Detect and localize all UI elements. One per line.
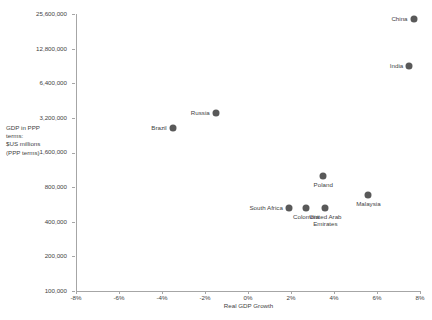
y-axis-tick-mark — [72, 14, 75, 15]
y-axis-title-line: $US millions — [6, 140, 72, 148]
data-point[interactable] — [320, 172, 327, 179]
y-axis-title-line: GDP in PPP — [6, 124, 72, 132]
x-axis-tick-mark — [420, 291, 421, 294]
y-axis-tick-label: 400,000 — [45, 219, 67, 225]
data-point-label: United Arab Emirates — [309, 213, 341, 228]
y-axis-tick-label: 3,200,000 — [39, 115, 67, 121]
data-point[interactable] — [212, 110, 219, 117]
scatter-chart: 100,000200,000400,000800,0001,600,0003,2… — [0, 0, 432, 320]
y-axis-tick-mark — [72, 187, 75, 188]
y-axis-tick-mark — [72, 256, 75, 257]
data-point[interactable] — [285, 204, 292, 211]
x-axis-tick-mark — [162, 291, 163, 294]
x-axis-tick-label: 8% — [416, 295, 425, 301]
x-axis-tick-mark — [119, 291, 120, 294]
y-axis-tick-label: 200,000 — [45, 253, 67, 259]
data-point[interactable] — [303, 204, 310, 211]
y-axis-tick-label: 6,400,000 — [39, 80, 67, 86]
y-axis-tick-mark — [72, 291, 75, 292]
data-point-label: Malaysia — [356, 200, 380, 207]
y-axis-title-line: terms: — [6, 132, 72, 140]
x-axis-tick-label: 0% — [244, 295, 253, 301]
data-point[interactable] — [169, 125, 176, 132]
x-axis-tick-mark — [205, 291, 206, 294]
y-axis-tick-label: 100,000 — [45, 288, 67, 294]
data-point-label: Russia — [191, 110, 210, 117]
data-point[interactable] — [365, 192, 372, 199]
data-point[interactable] — [406, 63, 413, 70]
x-axis-tick-label: 2% — [287, 295, 296, 301]
x-axis-tick-mark — [334, 291, 335, 294]
data-point-label: India — [390, 63, 403, 70]
y-axis-tick-mark — [72, 153, 75, 154]
x-axis-tick-label: 4% — [330, 295, 339, 301]
data-point[interactable] — [322, 204, 329, 211]
y-axis-tick-mark — [72, 83, 75, 84]
x-axis-tick-label: -2% — [199, 295, 210, 301]
x-axis-title: Real GDP Growth — [76, 303, 421, 309]
x-axis-tick-label: -4% — [156, 295, 167, 301]
x-axis-tick-mark — [76, 291, 77, 294]
x-axis-tick-mark — [377, 291, 378, 294]
data-point-label: China — [391, 16, 407, 23]
y-axis-tick-label: 12,800,000 — [36, 46, 67, 52]
y-axis-tick-label: 800,000 — [45, 184, 67, 190]
y-axis-tick-mark — [72, 222, 75, 223]
x-axis-tick-label: 6% — [373, 295, 382, 301]
y-axis-tick-labels: 100,000200,000400,000800,0001,600,0003,2… — [0, 0, 72, 320]
x-axis-tick-mark — [291, 291, 292, 294]
y-axis-tick-mark — [72, 49, 75, 50]
data-point-label: Poland — [314, 181, 333, 188]
y-axis-title: GDP in PPPterms:$US millions(PPP terms) — [6, 124, 72, 157]
data-point-label: Brazil — [151, 125, 166, 132]
x-axis-tick-mark — [248, 291, 249, 294]
data-point[interactable] — [410, 16, 417, 23]
x-axis-tick-label: -6% — [113, 295, 124, 301]
data-point-label: South Africa — [249, 204, 282, 211]
y-axis-tick-label: 25,600,000 — [36, 11, 67, 17]
y-axis-title-line: (PPP terms) — [6, 149, 72, 157]
x-axis-tick-label: -8% — [70, 295, 81, 301]
y-axis-tick-mark — [72, 118, 75, 119]
plot-area — [76, 14, 420, 291]
